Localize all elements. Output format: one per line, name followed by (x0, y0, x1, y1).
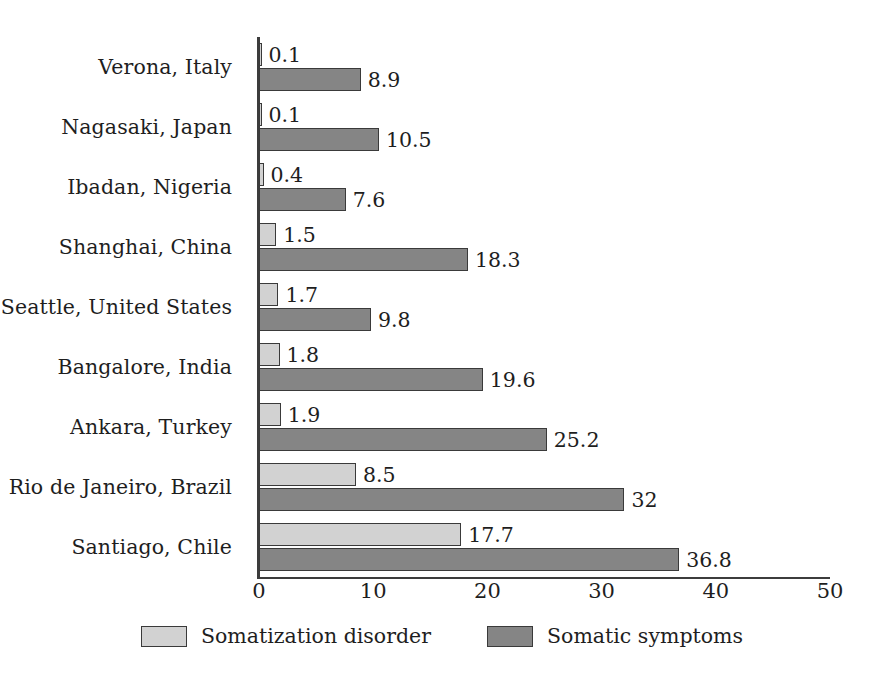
bar-value-label: 7.6 (353, 190, 386, 211)
category-label: Rio de Janeiro, Brazil (0, 477, 232, 498)
legend-label: Somatization disorder (201, 626, 431, 647)
x-tick-label: 40 (702, 581, 729, 602)
bar-value-label: 18.3 (475, 250, 521, 271)
x-tick-label: 20 (474, 581, 501, 602)
x-tick-label: 0 (252, 581, 265, 602)
bar-somatic-symptoms (259, 248, 468, 271)
bar-group: 0.110.5 (259, 97, 830, 157)
bar-value-label: 32 (631, 490, 657, 511)
bar-group: 1.925.2 (259, 397, 830, 457)
legend-swatch-icon (487, 626, 533, 647)
bar-value-label: 10.5 (386, 130, 432, 151)
bar-value-label: 1.8 (287, 345, 320, 366)
legend-item[interactable]: Somatization disorder (141, 626, 431, 647)
bar-somatic-symptoms (259, 548, 679, 571)
bar-value-label: 8.5 (363, 465, 396, 486)
category-label: Santiago, Chile (0, 537, 232, 558)
bar-value-label: 36.8 (686, 550, 732, 571)
bar-value-label: 19.6 (490, 370, 536, 391)
category-label: Verona, Italy (0, 57, 232, 78)
x-tick-label: 50 (817, 581, 844, 602)
bar-chart: Verona, ItalyNagasaki, JapanIbadan, Nige… (0, 0, 884, 698)
bar-somatization-disorder (259, 403, 281, 426)
category-label: Bangalore, India (0, 357, 232, 378)
bar-value-label: 0.1 (269, 45, 302, 66)
bar-somatic-symptoms (259, 128, 379, 151)
plot-area: 0.18.90.110.50.47.61.518.31.79.81.819.61… (259, 37, 830, 577)
bar-value-label: 25.2 (554, 430, 600, 451)
legend-label: Somatic symptoms (547, 626, 743, 647)
bar-group: 17.736.8 (259, 517, 830, 577)
category-axis-labels: Verona, ItalyNagasaki, JapanIbadan, Nige… (0, 37, 246, 577)
legend-item[interactable]: Somatic symptoms (487, 626, 743, 647)
bar-somatization-disorder (259, 103, 262, 126)
bar-somatization-disorder (259, 43, 262, 66)
bar-somatic-symptoms (259, 68, 361, 91)
category-label: Nagasaki, Japan (0, 117, 232, 138)
bar-value-label: 1.5 (283, 225, 316, 246)
bar-somatic-symptoms (259, 428, 547, 451)
bar-group: 1.79.8 (259, 277, 830, 337)
bar-somatic-symptoms (259, 188, 346, 211)
x-tick-label: 30 (588, 581, 615, 602)
bar-value-label: 0.4 (271, 165, 304, 186)
bar-somatization-disorder (259, 343, 280, 366)
bar-value-label: 8.9 (368, 70, 401, 91)
bar-somatization-disorder (259, 163, 264, 186)
bar-group: 1.819.6 (259, 337, 830, 397)
category-label: Ibadan, Nigeria (0, 177, 232, 198)
bar-somatization-disorder (259, 223, 276, 246)
bar-somatic-symptoms (259, 368, 483, 391)
category-label: Seattle, United States (0, 297, 232, 318)
bar-somatic-symptoms (259, 308, 371, 331)
bar-value-label: 1.9 (288, 405, 321, 426)
bar-value-label: 0.1 (269, 105, 302, 126)
bar-group: 0.47.6 (259, 157, 830, 217)
x-axis-line (257, 577, 830, 579)
legend-swatch-icon (141, 626, 187, 647)
bar-group: 0.18.9 (259, 37, 830, 97)
category-label: Ankara, Turkey (0, 417, 232, 438)
category-label: Shanghai, China (0, 237, 232, 258)
bar-group: 1.518.3 (259, 217, 830, 277)
chart-legend: Somatization disorderSomatic symptoms (0, 626, 884, 647)
bar-somatization-disorder (259, 463, 356, 486)
x-tick-label: 10 (360, 581, 387, 602)
bar-value-label: 9.8 (378, 310, 411, 331)
bar-somatization-disorder (259, 523, 461, 546)
bar-somatic-symptoms (259, 488, 624, 511)
bar-value-label: 17.7 (468, 525, 514, 546)
bar-value-label: 1.7 (285, 285, 318, 306)
bar-somatization-disorder (259, 283, 278, 306)
bar-group: 8.532 (259, 457, 830, 517)
x-axis-tick-labels: 01020304050 (259, 581, 830, 611)
